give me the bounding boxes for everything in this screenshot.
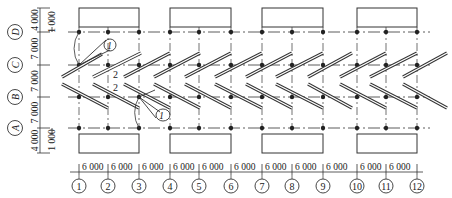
grid-node bbox=[384, 95, 388, 99]
top-block-3 bbox=[262, 8, 323, 27]
grid-node bbox=[321, 95, 325, 99]
grid-node bbox=[355, 126, 359, 130]
dimension-label-column: 6 000 bbox=[234, 162, 256, 172]
grid-node bbox=[229, 30, 233, 34]
grid-node bbox=[415, 30, 419, 34]
grid-node bbox=[415, 63, 419, 67]
member-label-lower: 2 bbox=[113, 82, 118, 93]
dimension-label-row: 7 000 bbox=[30, 38, 40, 60]
dimension-label-row: 7 000 bbox=[30, 102, 40, 124]
axis-label-column: 1 bbox=[77, 181, 82, 192]
dimension-label-inner-bottom: 1 000 bbox=[47, 129, 57, 151]
grid-node bbox=[168, 126, 172, 130]
grid-node bbox=[290, 126, 294, 130]
grid-node bbox=[260, 30, 264, 34]
dimension-label-inner-top: 1 000 bbox=[47, 11, 57, 33]
diagonal-member-fill bbox=[62, 54, 102, 77]
axis-label-column: 6 bbox=[229, 181, 234, 192]
top-block-2 bbox=[170, 8, 231, 27]
grid-node bbox=[290, 30, 294, 34]
bottom-block-3 bbox=[262, 134, 323, 153]
axis-label-column: 5 bbox=[197, 181, 202, 192]
grid-node bbox=[77, 30, 81, 34]
axis-label-row: C bbox=[10, 61, 21, 68]
axis-label-column: 8 bbox=[290, 181, 295, 192]
grid-node bbox=[168, 30, 172, 34]
grid-node bbox=[321, 30, 325, 34]
axis-label-row: B bbox=[10, 94, 21, 100]
top-block-4 bbox=[357, 8, 417, 27]
grid-node bbox=[355, 30, 359, 34]
axis-label-column: 9 bbox=[321, 181, 326, 192]
dimension-label-column: 6 000 bbox=[389, 162, 411, 172]
structural-plan-drawing: 6 0006 0006 0006 0006 0006 0006 0006 000… bbox=[0, 0, 452, 198]
grid-node bbox=[415, 95, 419, 99]
axis-label-row: D bbox=[10, 28, 21, 37]
grid-node bbox=[260, 95, 264, 99]
grid-node bbox=[260, 126, 264, 130]
dimension-label-column: 6 000 bbox=[82, 162, 104, 172]
dimension-label-column: 6 000 bbox=[360, 162, 382, 172]
dimension-label-row: 4 000 bbox=[30, 130, 40, 152]
dimension-label-row: 4 000 bbox=[30, 9, 40, 31]
grid-node bbox=[197, 95, 201, 99]
bottom-block-1 bbox=[79, 134, 139, 153]
swing-arc-bottom bbox=[135, 97, 139, 128]
axis-label-column: 7 bbox=[260, 181, 265, 192]
grid-node bbox=[137, 30, 141, 34]
axis-label-column: 11 bbox=[381, 181, 391, 192]
dimension-label-row: 7 000 bbox=[30, 70, 40, 92]
callout-label-bottom: 1 bbox=[159, 110, 164, 121]
dimension-label-column: 6 000 bbox=[173, 162, 195, 172]
dimension-label-column: 6 000 bbox=[142, 162, 164, 172]
grid-node bbox=[106, 63, 110, 67]
grid-node bbox=[106, 30, 110, 34]
axis-label-column: 2 bbox=[106, 181, 111, 192]
grid-node bbox=[77, 126, 81, 130]
bottom-block-4 bbox=[357, 134, 417, 153]
axis-label-column: 4 bbox=[168, 181, 173, 192]
axis-label-column: 12 bbox=[412, 181, 422, 192]
bottom-block-2 bbox=[170, 134, 231, 153]
dimension-label-column: 6 000 bbox=[111, 162, 133, 172]
dimension-label-column: 6 000 bbox=[202, 162, 224, 172]
grid-node bbox=[106, 126, 110, 130]
grid-node bbox=[197, 126, 201, 130]
grid-node bbox=[137, 63, 141, 67]
grid-node bbox=[106, 95, 110, 99]
axis-label-column: 3 bbox=[137, 181, 142, 192]
grid-node bbox=[197, 30, 201, 34]
axis-label-row: A bbox=[10, 124, 21, 132]
dimension-label-column: 6 000 bbox=[265, 162, 287, 172]
axis-label-column: 10 bbox=[352, 181, 362, 192]
dimension-label-column: 6 000 bbox=[326, 162, 348, 172]
dimension-label-column: 6 000 bbox=[295, 162, 317, 172]
top-block-1 bbox=[79, 8, 139, 27]
callout-label-top: 1 bbox=[107, 40, 112, 51]
member-label-upper: 2 bbox=[113, 69, 118, 80]
grid-node bbox=[290, 95, 294, 99]
grid-node bbox=[384, 126, 388, 130]
grid-node bbox=[415, 126, 419, 130]
grid-node bbox=[229, 95, 233, 99]
grid-node bbox=[197, 63, 201, 67]
grid-node bbox=[384, 30, 388, 34]
grid-node bbox=[321, 126, 325, 130]
grid-node bbox=[168, 95, 172, 99]
swing-arc-top bbox=[74, 32, 79, 65]
grid-node bbox=[229, 126, 233, 130]
